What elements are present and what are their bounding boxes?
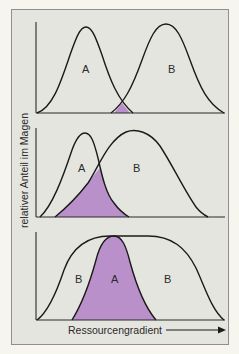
y-axis-label: relativer Anteil im Magen [18, 113, 30, 228]
panel-2: A B [36, 128, 225, 217]
niche-overlap-diagram: A B A B B A B relativer Anteil im Magen … [0, 0, 239, 354]
panel-3: B A B [36, 232, 225, 320]
gradient-arrow-icon [166, 327, 226, 334]
label-a: A [78, 162, 86, 174]
label-a: A [111, 273, 119, 285]
label-b: B [133, 162, 140, 174]
x-axis-label: Ressourcengradient [68, 324, 162, 336]
label-a: A [82, 63, 90, 75]
label-b-left: B [75, 273, 82, 285]
label-b-right: B [164, 273, 171, 285]
label-b: B [168, 63, 175, 75]
panel-1: A B [36, 22, 225, 113]
